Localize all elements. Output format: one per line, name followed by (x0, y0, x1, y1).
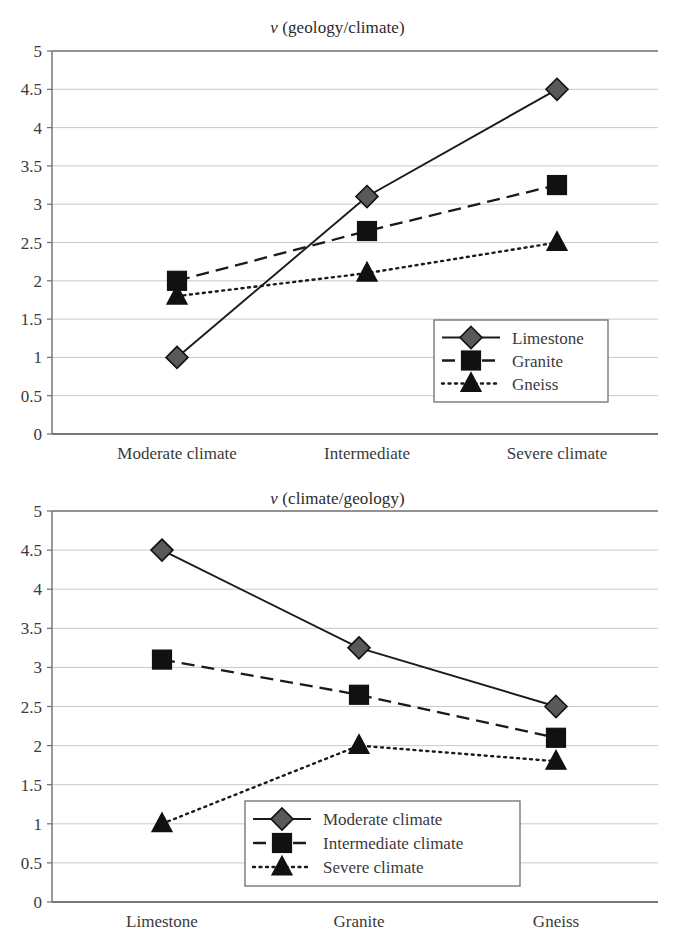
y-axis-tick-label: 3.5 (21, 157, 42, 176)
x-axis-tick-label: Limestone (126, 912, 198, 931)
legend-marker-sample-square-marker (273, 834, 292, 853)
y-axis-tick-label: 4.5 (21, 80, 42, 99)
x-axis-labels: LimestoneGraniteGneiss (126, 912, 579, 931)
data-point-diamond-marker (545, 696, 567, 718)
y-axis-tick-label: 2 (34, 737, 43, 756)
x-axis-labels: Moderate climateIntermediateSevere clima… (117, 444, 607, 463)
data-point-diamond-marker (546, 78, 568, 100)
y-axis-tick-label: 5 (34, 502, 43, 521)
chart-1-plot: 00.511.522.533.544.55Moderate climateInt… (0, 0, 675, 480)
data-point-triangle-marker (547, 232, 567, 251)
y-axis-tick-label: 3 (34, 195, 43, 214)
y-axis-tick-label: 4 (34, 580, 43, 599)
legend[interactable]: LimestoneGraniteGneiss (434, 320, 608, 402)
y-axis-tick-label: 1 (34, 348, 43, 367)
legend-item-label: Moderate climate (323, 810, 442, 829)
y-axis-tick-label: 2.5 (21, 234, 42, 253)
y-axis-tick-label: 3.5 (21, 619, 42, 638)
chart-2-plot: 00.511.522.533.544.55LimestoneGraniteGne… (0, 471, 675, 951)
y-axis-tick-label: 0 (34, 425, 43, 444)
x-axis-tick-label: Intermediate (324, 444, 410, 463)
legend-marker-sample-square-marker (462, 351, 481, 370)
data-point-square-marker (358, 222, 377, 241)
y-axis-tick-label: 5 (34, 42, 43, 61)
data-point-triangle-marker (349, 735, 369, 754)
data-point-square-marker (547, 728, 566, 747)
y-axis-tick-label: 4 (34, 119, 43, 138)
y-axis-tick-label: 4.5 (21, 541, 42, 560)
y-axis-tick-label: 0 (34, 893, 43, 912)
x-axis-tick-label: Moderate climate (117, 444, 236, 463)
chart-climate-geology: ν (climate/geology) 00.511.522.533.544.5… (0, 471, 675, 951)
y-axis-tick-label: 3 (34, 658, 43, 677)
x-axis-tick-label: Gneiss (533, 912, 579, 931)
data-point-diamond-marker (151, 539, 173, 561)
x-axis-tick-label: Granite (334, 912, 385, 931)
x-axis-tick-label: Severe climate (507, 444, 608, 463)
legend-item-label: Granite (512, 352, 563, 371)
y-axis-tick-label: 2.5 (21, 698, 42, 717)
data-point-triangle-marker (357, 262, 377, 281)
y-axis-tick-label: 2 (34, 272, 43, 291)
legend-item[interactable]: Moderate climate (253, 808, 442, 830)
series-intermediate-climate (153, 650, 566, 747)
legend-item-label: Gneiss (512, 375, 558, 394)
y-axis-tick-label: 0.5 (21, 387, 42, 406)
y-axis-tick-label: 0.5 (21, 854, 42, 873)
data-point-diamond-marker (348, 637, 370, 659)
y-axis-tick-label: 1.5 (21, 310, 42, 329)
y-axis-tick-label: 1.5 (21, 776, 42, 795)
legend-item-label: Severe climate (323, 858, 424, 877)
data-point-square-marker (548, 176, 567, 195)
legend-item-label: Intermediate climate (323, 834, 463, 853)
figure-page: ν (geology/climate) 00.511.522.533.544.5… (0, 0, 675, 951)
legend[interactable]: Moderate climateIntermediate climateSeve… (245, 801, 520, 886)
data-point-square-marker (350, 685, 369, 704)
data-point-square-marker (153, 650, 172, 669)
legend-item-label: Limestone (512, 329, 584, 348)
legend-item[interactable]: Intermediate climate (253, 834, 463, 854)
y-axis-tick-label: 1 (34, 815, 43, 834)
chart-geology-climate: ν (geology/climate) 00.511.522.533.544.5… (0, 0, 675, 480)
